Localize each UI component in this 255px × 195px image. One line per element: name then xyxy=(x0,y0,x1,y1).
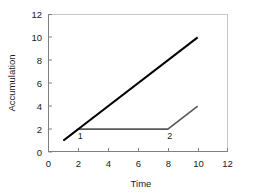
y-tick-label: 0 xyxy=(37,147,42,158)
y-tick-label: 12 xyxy=(31,9,42,20)
x-tick-labels: 0 2 4 6 8 10 12 xyxy=(46,158,233,169)
y-tick-label: 10 xyxy=(31,32,42,43)
chart-figure: 0 2 4 6 8 10 12 0 2 4 6 8 10 12 Time Acc… xyxy=(0,0,255,195)
annotation-label-1: 1 xyxy=(78,131,83,141)
x-tick-label: 2 xyxy=(76,158,81,169)
x-tick-label: 0 xyxy=(46,158,51,169)
x-tick-label: 8 xyxy=(166,158,171,169)
x-axis-title: Time xyxy=(131,178,152,189)
chart-canvas: 0 2 4 6 8 10 12 0 2 4 6 8 10 12 Time Acc… xyxy=(0,0,255,195)
y-tick-label: 2 xyxy=(37,124,42,135)
annotation-label-2: 2 xyxy=(167,131,172,141)
x-tick-label: 10 xyxy=(193,158,204,169)
y-tick-labels: 0 2 4 6 8 10 12 xyxy=(31,9,42,158)
x-tick-label: 4 xyxy=(106,158,111,169)
y-axis-title: Accumulation xyxy=(6,54,17,111)
y-tick-label: 6 xyxy=(37,78,42,89)
y-tick-label: 4 xyxy=(37,101,42,112)
x-tick-label: 12 xyxy=(222,158,233,169)
y-tick-label: 8 xyxy=(37,55,42,66)
x-tick-label: 6 xyxy=(136,158,141,169)
